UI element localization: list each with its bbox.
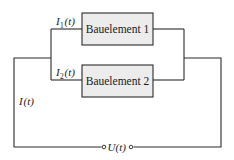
i1-subscript: 1	[60, 21, 64, 30]
i2-subscript: 2	[60, 72, 64, 81]
component-2: Bauelement 2	[82, 65, 153, 97]
terminal-right-icon	[129, 145, 133, 149]
current-label-i1: I 1 (t)	[55, 15, 75, 30]
i-arg: (t)	[24, 95, 35, 108]
voltage-terminals: U (t)	[102, 141, 133, 154]
i1-arg: (t)	[65, 15, 76, 28]
component-1-label: Bauelement 1	[86, 23, 150, 35]
circuit-diagram: Bauelement 1 Bauelement 2 I 1 (t) I 2 (t…	[0, 0, 234, 160]
current-label-i2: I 2 (t)	[55, 66, 75, 81]
component-2-label: Bauelement 2	[86, 75, 150, 87]
terminal-left-icon	[102, 145, 106, 149]
current-label-total: I (t)	[18, 95, 34, 108]
component-1: Bauelement 1	[82, 13, 153, 45]
i2-arg: (t)	[65, 66, 76, 79]
u-arg: (t)	[116, 141, 127, 154]
